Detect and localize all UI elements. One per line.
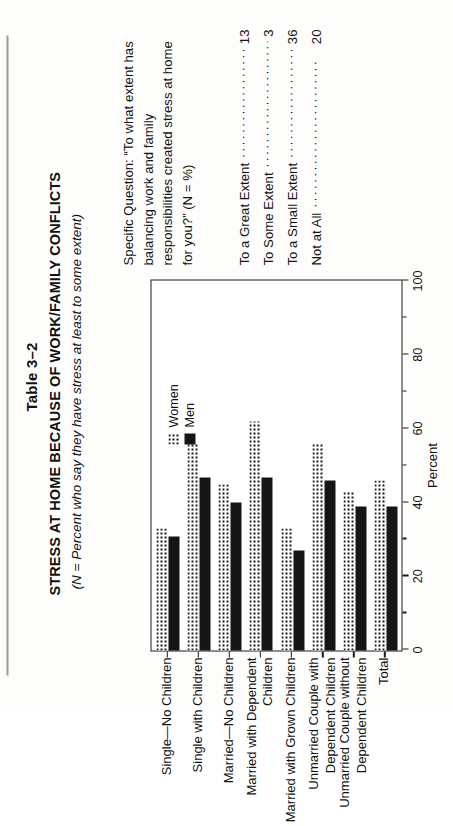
bar-group — [218, 281, 241, 650]
category-tick — [321, 651, 322, 657]
x-axis-tick-label: 40 — [410, 495, 424, 509]
bar-women — [187, 443, 198, 650]
x-axis-tick — [402, 353, 408, 354]
category-label: Married—No Children — [221, 657, 238, 826]
header-rule — [6, 35, 8, 675]
bar-chart: Women Men — [150, 279, 402, 651]
table-number: Table 3–2 — [22, 342, 39, 411]
response-row: To Some Extent························3 — [256, 29, 280, 265]
bar-men — [293, 550, 304, 650]
bar-group — [156, 281, 179, 650]
category-label: Unmarried Couple without Dependent Child… — [337, 657, 370, 826]
response-leader-dots: ························ — [230, 49, 254, 158]
x-axis-minor-tick — [402, 611, 406, 612]
x-axis-minor-tick — [402, 537, 406, 538]
legend-label-men: Men — [181, 403, 197, 428]
chart-plot-area — [151, 280, 401, 650]
response-row: Not at All························20 — [304, 29, 328, 265]
category-tick — [353, 651, 354, 657]
category-tick — [197, 651, 198, 657]
bar-group — [281, 281, 304, 650]
bar-women — [374, 480, 385, 650]
bar-men — [199, 477, 210, 650]
category-label: Married with Dependent Children — [243, 657, 276, 826]
response-value: 36 — [280, 29, 304, 44]
category-label: Married with Grown Children — [283, 657, 300, 826]
category-label: Unmarried Couple with Dependent Children — [306, 657, 339, 826]
response-label: To Some Extent — [256, 172, 280, 265]
specific-question-note: Specific Question: “To what extent has b… — [118, 29, 196, 265]
bar-men — [324, 480, 335, 650]
x-axis-tick-label: 80 — [410, 347, 424, 361]
legend-item-men: Men — [181, 384, 197, 444]
response-label: To a Great Extent — [232, 162, 256, 265]
response-label: To a Small Extent — [280, 162, 304, 265]
x-axis-label: Percent — [424, 279, 439, 651]
category-label: Total — [376, 657, 393, 826]
bar-group — [249, 281, 272, 650]
response-leader-dots: ························ — [254, 41, 278, 167]
legend-item-women: Women — [165, 384, 181, 444]
response-leader-dots: ························ — [302, 49, 326, 208]
category-tick — [384, 651, 385, 657]
bar-women — [281, 528, 292, 650]
bar-group — [374, 281, 397, 650]
x-axis-tick-label: 60 — [410, 421, 424, 435]
x-axis-tick — [402, 574, 408, 575]
x-axis-tick — [402, 648, 408, 649]
x-axis-tick-label: 20 — [410, 569, 424, 583]
bar-men — [230, 502, 241, 650]
response-leader-dots: ························ — [278, 49, 302, 158]
bar-women — [218, 484, 229, 650]
response-breakdown-list: To a Great Extent·······················… — [232, 29, 328, 265]
x-axis-tick — [402, 279, 408, 280]
x-axis-tick — [402, 501, 408, 502]
table-subtitle: (N = Percent who say they have stress at… — [68, 213, 83, 589]
bar-women — [249, 421, 260, 650]
response-row: To a Great Extent·······················… — [232, 29, 256, 265]
bar-group — [187, 281, 210, 650]
legend-swatch-women-icon — [168, 433, 179, 444]
legend-label-women: Women — [165, 384, 181, 427]
bar-women — [312, 443, 323, 650]
response-value: 20 — [304, 29, 328, 44]
category-tick — [228, 651, 229, 657]
bar-men — [386, 506, 397, 650]
legend-swatch-men-icon — [184, 433, 195, 444]
bar-women — [156, 528, 167, 650]
category-tick — [259, 651, 260, 657]
bar-women — [343, 491, 354, 650]
response-value: 3 — [256, 29, 280, 36]
category-label: Single with Children — [189, 657, 206, 826]
specific-question-text: Specific Question: “To what extent has b… — [118, 29, 196, 265]
x-axis-tick — [402, 427, 408, 428]
response-value: 13 — [232, 29, 256, 44]
category-label: Single—No Children — [158, 657, 175, 826]
bar-men — [355, 506, 366, 650]
response-row: To a Small Extent·······················… — [280, 29, 304, 265]
bar-men — [168, 536, 179, 650]
page-title: STRESS AT HOME BECAUSE OF WORK/FAMILY CO… — [46, 171, 62, 595]
chart-legend: Women Men — [165, 384, 197, 444]
category-tick — [166, 651, 167, 657]
bar-group — [343, 281, 366, 650]
x-axis-minor-tick — [402, 464, 406, 465]
x-axis-minor-tick — [402, 390, 406, 391]
bar-men — [261, 477, 272, 650]
x-axis-tick-label: 0 — [410, 646, 424, 653]
response-label: Not at All — [304, 212, 328, 265]
bar-group — [312, 281, 335, 650]
x-axis-tick-label: 100 — [410, 270, 424, 291]
x-axis-minor-tick — [402, 316, 406, 317]
category-tick — [290, 651, 291, 657]
